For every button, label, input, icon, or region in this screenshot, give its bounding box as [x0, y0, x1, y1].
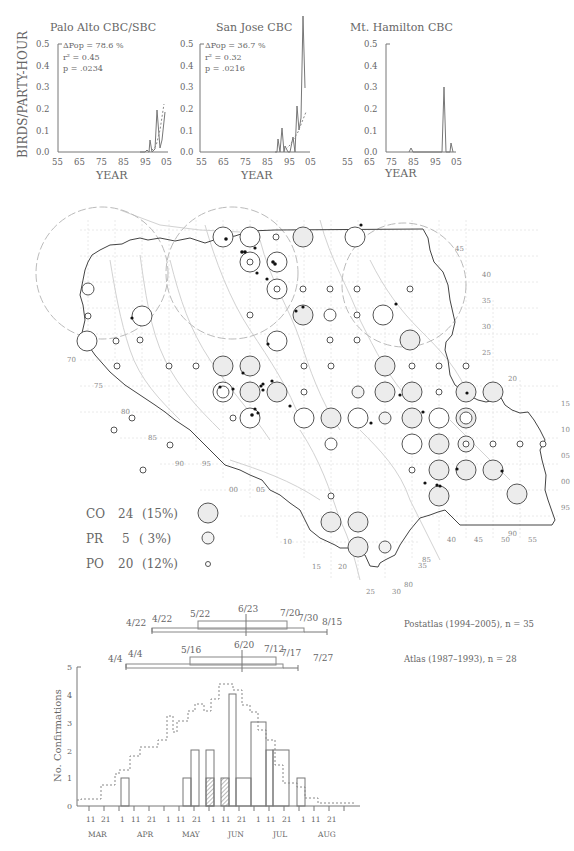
svg-text:40: 40 [482, 271, 491, 279]
svg-text:1: 1 [120, 815, 125, 824]
po-symbol [247, 312, 253, 318]
x-tick: 65 [218, 157, 229, 167]
svg-text:11: 11 [131, 815, 141, 824]
y-tick: 0.2 [36, 104, 50, 114]
svg-text:1: 1 [301, 815, 306, 824]
svg-text:45: 45 [455, 245, 464, 253]
month-label: JUL [272, 830, 287, 839]
po-symbol [354, 337, 360, 343]
svg-text:00: 00 [229, 486, 238, 494]
co-symbol [429, 460, 449, 480]
postatlas-range: 4/22 4/22 5/22 6/23 7/20 7/30 8/15 [126, 604, 342, 636]
panel-title: Palo Alto CBC/SBC [50, 21, 156, 34]
po-symbol [354, 286, 360, 292]
po-symbol [114, 363, 120, 369]
svg-text:20: 20 [118, 557, 133, 571]
month-label: MAR [88, 830, 107, 839]
co-symbol [213, 356, 233, 376]
co-symbol [400, 330, 420, 350]
svg-text:4/4: 4/4 [108, 654, 123, 664]
y-tick: 0.4 [36, 61, 50, 71]
cbc-y-axis-label: BIRDS/PARTY-HOUR [16, 30, 30, 158]
po-symbol [193, 363, 199, 369]
svg-text:(15%): (15%) [142, 507, 178, 521]
co-symbol [375, 382, 395, 402]
po-symbol [517, 441, 523, 447]
y-tick: 0.0 [36, 147, 50, 157]
co-symbol [429, 486, 449, 506]
svg-text:1: 1 [211, 815, 216, 824]
svg-text:4/22: 4/22 [126, 618, 146, 628]
histogram: 5 4 3 2 1 0 No. Confirmations 11 21 1 11… [52, 663, 360, 839]
co-open-symbol [240, 408, 260, 428]
svg-text:20: 20 [338, 563, 347, 571]
po-symbol [113, 338, 119, 344]
co-symbol [456, 460, 476, 480]
svg-text:21: 21 [101, 815, 111, 824]
cbc-panel-palo-alto: Palo Alto CBC/SBC 0.5 0.4 0.3 0.2 0.1 0.… [36, 21, 172, 182]
x-tick: 75 [96, 157, 107, 167]
map-rivers [110, 210, 510, 580]
svg-text:0: 0 [67, 802, 72, 811]
svg-text:4/4: 4/4 [128, 649, 143, 659]
po-symbol [273, 234, 279, 240]
po-symbol [301, 363, 307, 369]
svg-text:45: 45 [474, 536, 483, 544]
y-tick: 0.1 [36, 126, 50, 136]
co-symbol [348, 512, 368, 532]
svg-text:55: 55 [528, 536, 537, 544]
svg-text:15: 15 [561, 400, 570, 408]
po-symbol [436, 389, 442, 395]
panel-title: Mt. Hamilton CBC [350, 21, 453, 34]
svg-text:4/22: 4/22 [152, 614, 172, 624]
x-tick: 65 [74, 157, 85, 167]
po-symbol [140, 467, 146, 473]
y-tick: 0.4 [180, 61, 194, 71]
svg-text:35: 35 [482, 297, 491, 305]
atlas-label: Atlas (1987–1993), n = 28 [403, 654, 517, 664]
svg-text:24: 24 [118, 507, 134, 521]
svg-text:2: 2 [67, 747, 72, 756]
svg-text:10: 10 [283, 538, 292, 546]
legend-pr-symbol [202, 532, 214, 544]
svg-text:(12%): (12%) [142, 557, 178, 571]
svg-text:25: 25 [366, 588, 375, 596]
y-tick: 0.3 [36, 82, 50, 92]
po-symbol [327, 286, 333, 292]
x-tick: 85 [262, 157, 273, 167]
x-tick: 85 [118, 157, 129, 167]
po-symbol [327, 337, 333, 343]
co-symbol [267, 382, 287, 402]
svg-text:21: 21 [237, 815, 247, 824]
x-tick: 05 [305, 157, 316, 167]
co-symbol [348, 537, 368, 557]
histogram-y-label: No. Confirmations [52, 689, 63, 782]
po-symbol [463, 441, 469, 447]
cbc-panel-san-jose: San Jose CBC 0.5 0.4 0.3 0.2 0.1 0.0 55 … [180, 16, 316, 182]
y-tick: 0.1 [180, 126, 194, 136]
month-label: JUN [227, 830, 244, 839]
y-tick: 0.5 [364, 39, 378, 49]
svg-text:35: 35 [418, 562, 427, 570]
co-symbol [293, 227, 313, 247]
co-open-symbol [373, 305, 393, 325]
po-symbol [436, 363, 442, 369]
svg-text:90: 90 [175, 460, 184, 468]
po-symbol [111, 427, 117, 433]
po-symbol [137, 337, 143, 343]
x-tick: 95 [140, 157, 151, 167]
co-open-symbol [77, 331, 97, 351]
histogram-dashed-profile [77, 684, 356, 803]
month-label: MAY [182, 830, 201, 839]
svg-text:15: 15 [312, 563, 321, 571]
stat-p: p = .0234 [63, 64, 103, 73]
svg-text:20: 20 [508, 375, 517, 383]
pr-open-symbol [82, 283, 94, 295]
pr-open-symbol [460, 412, 472, 424]
co-open-symbol [402, 434, 422, 454]
po-symbol [230, 415, 236, 421]
svg-text:7/30: 7/30 [298, 613, 318, 623]
co-symbol [321, 408, 341, 428]
po-symbol [167, 442, 173, 448]
co-open-symbol [240, 227, 260, 247]
